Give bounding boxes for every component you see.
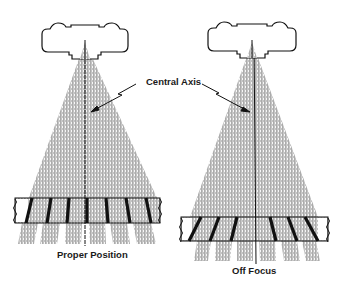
grid-focus-diagram bbox=[0, 0, 350, 287]
off-focus-panel bbox=[180, 22, 330, 264]
transmitted-beams bbox=[18, 223, 156, 244]
off-focus-caption: Off Focus bbox=[232, 265, 276, 276]
proper-position-panel bbox=[14, 23, 162, 246]
grid-band bbox=[14, 198, 162, 223]
proper-position-caption: Proper Position bbox=[57, 249, 128, 260]
central-axis-label: Central Axis bbox=[146, 76, 201, 87]
transmitted-beams bbox=[194, 241, 320, 261]
grid-band bbox=[180, 217, 330, 242]
x-ray-beam-cone bbox=[28, 42, 158, 200]
